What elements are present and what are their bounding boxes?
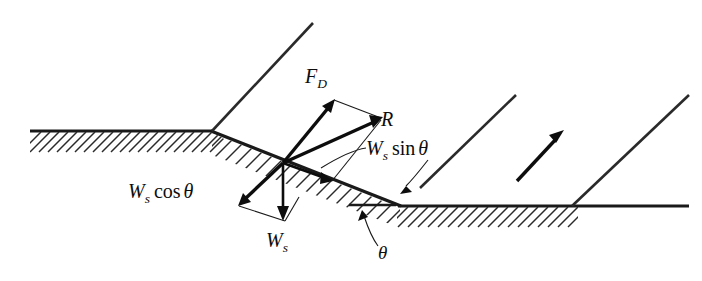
arrowhead-flow-direction bbox=[549, 130, 564, 143]
label-slope-angle: θ bbox=[378, 242, 387, 263]
force-parallelogram-construction bbox=[239, 100, 381, 221]
vector-weight-parallel bbox=[283, 163, 333, 184]
label-drag-force: FD bbox=[304, 65, 327, 91]
lower-ground-hatching bbox=[388, 207, 588, 227]
figure-canvas: FD R Wssinθ Wscosθ Ws θ bbox=[0, 0, 702, 281]
bank-line-middle bbox=[420, 95, 516, 188]
label-weight-normal-subscript: s bbox=[145, 191, 150, 206]
leader-arrowhead-theta bbox=[358, 210, 368, 221]
label-slope-angle-symbol: θ bbox=[378, 242, 387, 263]
label-weight-subscript: s bbox=[283, 240, 288, 255]
label-weight-normal: Wscosθ bbox=[128, 180, 194, 206]
bank-line-right bbox=[572, 95, 689, 206]
label-weight-parallel: Wssinθ bbox=[366, 137, 428, 163]
label-drag-force-subscript: D bbox=[316, 76, 327, 91]
label-weight-normal-operator: cos bbox=[154, 180, 181, 202]
force-vectors bbox=[238, 99, 564, 221]
label-weight-normal-angle: θ bbox=[184, 180, 194, 202]
label-resultant: R bbox=[380, 108, 393, 130]
slope-force-diagram: FD R Wssinθ Wscosθ Ws θ bbox=[0, 0, 702, 281]
label-weight: Ws bbox=[266, 229, 288, 255]
label-weight-parallel-subscript: s bbox=[383, 148, 388, 163]
bank-line-left bbox=[212, 23, 313, 131]
vector-drag-force bbox=[283, 99, 335, 163]
label-drag-force-symbol: F bbox=[304, 65, 318, 87]
vector-weight-normal bbox=[238, 163, 283, 206]
upper-ground-hatching bbox=[21, 132, 230, 152]
vector-flow-direction bbox=[517, 130, 564, 181]
label-resultant-symbol: R bbox=[380, 108, 393, 130]
leader-arrowhead-slope bbox=[400, 186, 412, 194]
label-weight-parallel-angle: θ bbox=[418, 137, 428, 159]
vector-weight bbox=[277, 163, 289, 221]
leader-theta bbox=[364, 216, 378, 246]
leader-weight-parallel bbox=[321, 148, 366, 168]
label-weight-parallel-operator: sin bbox=[392, 137, 415, 159]
